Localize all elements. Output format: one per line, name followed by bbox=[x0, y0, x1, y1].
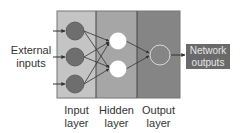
output-layer-label: Output layer bbox=[136, 104, 181, 130]
input-node bbox=[66, 22, 84, 40]
hidden-node bbox=[110, 61, 127, 78]
input-layer-label: Input layer bbox=[57, 104, 96, 130]
network-outputs-label: Network outputs bbox=[186, 44, 230, 69]
input-node bbox=[66, 48, 84, 66]
external-inputs-label: External inputs bbox=[8, 44, 54, 70]
hidden-node bbox=[110, 33, 127, 50]
hidden-layer-label: Hidden layer bbox=[94, 104, 139, 130]
input-node bbox=[66, 75, 84, 93]
